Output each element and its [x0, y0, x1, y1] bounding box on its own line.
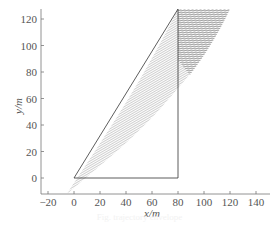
- x-tick-140: 140: [248, 196, 265, 208]
- x-tick-neg20: −20: [39, 196, 57, 208]
- y-tick-0: 0: [32, 172, 38, 184]
- y-axis-label: y/m: [12, 98, 24, 115]
- x-tick-40: 40: [121, 196, 133, 208]
- y-tick-80: 80: [26, 66, 38, 78]
- y-tick-100: 100: [21, 40, 38, 52]
- y-tick-120: 120: [21, 13, 38, 25]
- x-tick-0: 0: [71, 196, 77, 208]
- x-tick-100: 100: [196, 196, 213, 208]
- x-tick-80: 80: [173, 196, 185, 208]
- y-tick-20: 20: [26, 146, 38, 158]
- x-tick-20: 20: [95, 196, 107, 208]
- y-tick-60: 60: [26, 93, 38, 105]
- chart: 0 20 40 60 80 100 120 −20 0 20 40 60 80 …: [0, 0, 279, 229]
- x-tick-120: 120: [222, 196, 239, 208]
- hatched-band: [67, 9, 230, 194]
- y-tick-40: 40: [26, 119, 38, 131]
- figure-caption: Fig. trajectory envelope: [0, 212, 279, 222]
